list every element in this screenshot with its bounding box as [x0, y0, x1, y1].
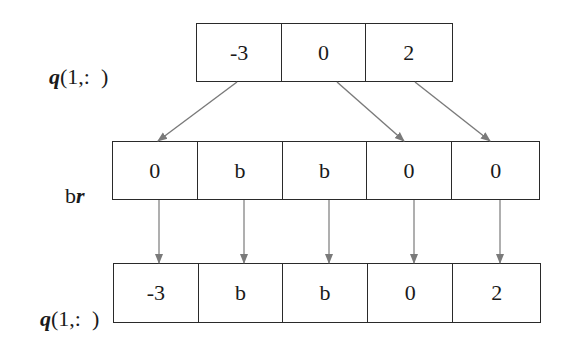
bottom-row-label: q(1,: )	[29, 280, 99, 332]
arrow-top2-to-mid4	[337, 82, 404, 141]
top-row-array: -3 0 2	[196, 23, 453, 82]
middle-row-array: 0 b b 0 0	[112, 141, 540, 200]
top-cell-1: -3	[197, 24, 282, 81]
top-row-label-var: q	[49, 64, 60, 89]
top-row-label-index: (1,: )	[60, 64, 108, 89]
top-to-middle-arrows	[158, 82, 490, 141]
bottom-cell-3: b	[283, 264, 368, 322]
bottom-row-label-index: (1,: )	[51, 306, 99, 331]
middle-cell-2: b	[198, 142, 284, 199]
bottom-cell-4: 0	[368, 264, 454, 322]
bottom-row-label-var: q	[40, 306, 51, 331]
middle-cell-1: 0	[113, 142, 198, 199]
bottom-row-array: -3 b b 0 2	[113, 263, 541, 323]
top-row-label: q(1,: )	[38, 38, 108, 90]
middle-cell-3: b	[283, 142, 367, 199]
bottom-cell-2: b	[199, 264, 284, 322]
arrow-top3-to-mid5	[415, 82, 490, 141]
bottom-cell-5: 2	[453, 264, 540, 322]
bottom-cell-1: -3	[114, 264, 199, 322]
middle-to-bottom-arrows	[159, 200, 500, 263]
arrow-top1-to-mid1	[158, 82, 237, 141]
middle-row-label-prefix: b	[65, 183, 76, 208]
middle-row-label: br	[54, 157, 85, 209]
middle-cell-5: 0	[452, 142, 539, 199]
middle-row-label-var: r	[76, 183, 85, 208]
top-cell-2: 0	[282, 24, 365, 81]
top-cell-3: 2	[366, 24, 452, 81]
middle-cell-4: 0	[367, 142, 453, 199]
